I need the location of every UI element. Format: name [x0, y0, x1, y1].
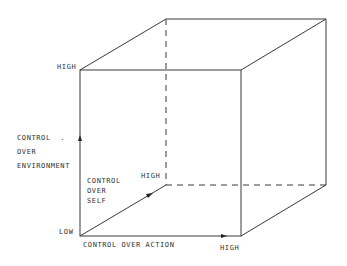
vertical-axis-title-line1: CONTROL .	[17, 133, 65, 143]
horizontal-axis-arrow-icon	[221, 234, 227, 238]
depth-axis-arrow-icon	[146, 193, 153, 198]
vertical-axis-arrow-icon	[78, 135, 82, 141]
horizontal-axis-title: CONTROL OVER ACTION	[83, 240, 174, 250]
vertical-axis-title-line2: OVER	[17, 147, 36, 157]
depth-axis-title-line1: CONTROL	[87, 176, 121, 186]
cube-bottom-right-edge	[241, 185, 326, 236]
depth-axis-title-line2: OVER	[87, 186, 106, 196]
cube-top-left-edge	[80, 19, 166, 70]
depth-axis-title-line3: SELF	[87, 196, 106, 206]
vertical-axis-high-label: HIGH	[57, 62, 76, 72]
cube-front-face	[80, 70, 241, 236]
vertical-axis-title-line3: ENVIRONMENT	[17, 161, 70, 171]
horizontal-axis-high-label: HIGH	[220, 243, 239, 253]
cube-top-right-edge	[241, 19, 326, 70]
depth-axis-high-label: HIGH	[141, 171, 160, 181]
origin-low-label: LOW	[59, 227, 73, 237]
